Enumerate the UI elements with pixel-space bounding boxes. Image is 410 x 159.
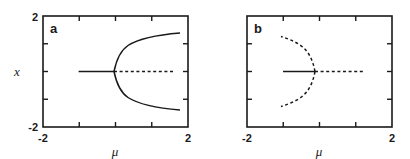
panel-a-y-axis-title: x	[13, 64, 20, 79]
panel-b-unstable-upper-branch	[281, 37, 315, 72]
panel-a-x-left-tick-label: -2	[38, 132, 48, 144]
panel-a-label: a	[50, 21, 58, 36]
panel-b-label: b	[254, 21, 262, 36]
panel-b-x-left-tick-label: -2	[242, 132, 252, 144]
panel-a-x-right-tick-label: 2	[185, 132, 191, 144]
panel-a-y-bottom-tick-label: -2	[28, 121, 38, 133]
panel-a-stable-upper-branch	[114, 33, 180, 72]
panel-b-x-right-tick-label: 2	[389, 132, 395, 144]
panel-b: b -2 2 μ	[242, 16, 395, 159]
panel-b-x-axis-title: μ	[315, 144, 323, 159]
bifurcation-diagram-figure: a 2 -2 -2 2 x μ	[0, 0, 410, 159]
panel-b-unstable-lower-branch	[281, 72, 315, 107]
panel-a-stable-lower-branch	[114, 72, 180, 111]
panel-a: a 2 -2 -2 2 x μ	[13, 11, 191, 159]
panel-b-axes-frame	[247, 16, 392, 127]
panel-a-x-axis-title: μ	[111, 144, 119, 159]
panel-a-y-top-tick-label: 2	[32, 11, 38, 23]
